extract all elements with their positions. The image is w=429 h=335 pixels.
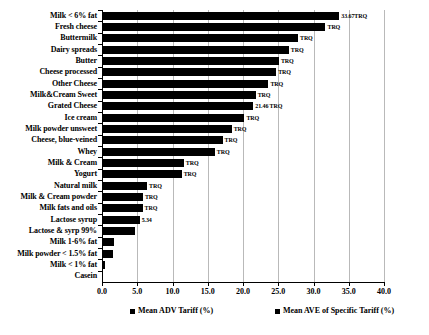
category-label: Buttermilk (60, 34, 97, 42)
chart-row: Milk < 6% fat33.67TRQ (102, 10, 384, 21)
chart-row: ButterTRQ (102, 55, 384, 66)
bar (102, 91, 256, 99)
legend-label: Mean ADV Tariff (%) (138, 307, 213, 315)
chart-legend: Mean ADV Tariff (%) Mean AVE of Specific… (0, 307, 429, 321)
x-axis-tick-label: 25.0 (271, 288, 285, 296)
legend-swatch-icon (275, 309, 280, 314)
bar (102, 238, 114, 246)
x-axis-tick-label: 0.0 (97, 288, 107, 296)
y-axis-tick (98, 33, 102, 34)
y-axis-tick (98, 214, 102, 215)
bar-annotation: TRQ (270, 81, 283, 87)
chart-row: Milk & CreamTRQ (102, 157, 384, 168)
chart-row: Casein (102, 271, 384, 282)
category-label: Milk fats and oils (39, 204, 97, 212)
bar-chart: Milk < 6% fat33.67TRQFresh cheeseTRQButt… (0, 0, 429, 335)
bar-annotation: TRQ (278, 69, 291, 75)
y-axis-tick (98, 225, 102, 226)
bar-annotation: TRQ (281, 58, 294, 64)
category-label: Cheese processed (39, 68, 97, 76)
bar-annotation: 5.34 (142, 217, 152, 223)
category-label: Lactose & syrp 99% (29, 227, 97, 235)
bar-annotation: TRQ (217, 149, 230, 155)
bar (102, 261, 105, 269)
y-axis-tick (98, 10, 102, 11)
chart-row: Cheese, blue-veinedTRQ (102, 135, 384, 146)
x-axis-tick (173, 282, 174, 286)
bar (102, 170, 182, 178)
y-axis-tick (98, 21, 102, 22)
y-axis-tick (98, 112, 102, 113)
bar-annotation: TRQ (225, 137, 238, 143)
bar (102, 193, 143, 201)
bar-annotation: TRQ (186, 160, 199, 166)
chart-row: Ice creamTRQ (102, 112, 384, 123)
y-axis-tick (98, 135, 102, 136)
y-axis-tick (98, 146, 102, 147)
x-axis-tick (102, 282, 103, 286)
y-axis-tick (98, 203, 102, 204)
y-axis-tick (98, 123, 102, 124)
bar-annotation: TRQ (291, 47, 304, 53)
chart-row: Lactose syrup5.34 (102, 214, 384, 225)
bar (102, 159, 184, 167)
bar (102, 250, 113, 258)
category-label: Butter (75, 57, 97, 65)
chart-row: Grated Cheese21.46 TRQ (102, 101, 384, 112)
chart-row: Dairy spreadsTRQ (102, 44, 384, 55)
bar-annotation: 21.46 TRQ (255, 103, 282, 109)
bar (102, 114, 244, 122)
category-label: Milk powder unsweet (25, 125, 97, 133)
chart-row: Lactose & syrp 99% (102, 225, 384, 236)
y-axis-tick (98, 169, 102, 170)
bar-annotation: TRQ (184, 171, 197, 177)
category-label: Milk & Cream powder (21, 193, 97, 201)
plot-area: Milk < 6% fat33.67TRQFresh cheeseTRQButt… (102, 10, 384, 282)
chart-row: WheyTRQ (102, 146, 384, 157)
chart-row: Fresh cheeseTRQ (102, 21, 384, 32)
x-axis-tick (208, 282, 209, 286)
y-axis-tick (98, 259, 102, 260)
y-axis-tick (98, 180, 102, 181)
legend-label: Mean AVE of Specific Tariff (%) (283, 307, 394, 315)
chart-row: Milk < 1% fat (102, 259, 384, 270)
x-axis-tick-label: 35.0 (342, 288, 356, 296)
bar (102, 57, 279, 65)
bar (102, 46, 289, 54)
bar-annotation: TRQ (234, 126, 247, 132)
bar (102, 102, 253, 110)
bar (102, 148, 215, 156)
x-axis-tick (278, 282, 279, 286)
x-axis-tick (349, 282, 350, 286)
y-axis-tick (98, 89, 102, 90)
legend-item-ave-specific-tariff: Mean AVE of Specific Tariff (%) (275, 307, 394, 315)
y-axis-tick (98, 237, 102, 238)
bar (102, 68, 276, 76)
category-label: Other Cheese (52, 80, 97, 88)
category-label: Milk 1-6% fat (50, 238, 97, 246)
bar (102, 12, 339, 20)
y-axis-tick (98, 248, 102, 249)
category-label: Cheese, blue-veined (31, 136, 97, 144)
bar-annotation: TRQ (149, 183, 162, 189)
gridline (384, 10, 385, 282)
category-label: Ice cream (65, 114, 98, 122)
x-axis-tick (314, 282, 315, 286)
chart-row: Milk&Cream SweetTRQ (102, 89, 384, 100)
bar-annotation: TRQ (145, 194, 158, 200)
legend-swatch-icon (130, 309, 135, 314)
category-label: Milk < 1% fat (50, 261, 97, 269)
chart-row: YogurtTRQ (102, 169, 384, 180)
x-axis-tick-label: 20.0 (236, 288, 250, 296)
x-axis-tick (137, 282, 138, 286)
bar (102, 227, 135, 235)
bar (102, 182, 147, 190)
bar-annotation: 33.67TRQ (341, 13, 367, 19)
category-label: Grated Cheese (48, 102, 97, 110)
chart-row: Milk fats and oilsTRQ (102, 203, 384, 214)
legend-item-adv-tariff: Mean ADV Tariff (%) (130, 307, 213, 315)
bar-annotation: TRQ (258, 92, 271, 98)
x-axis-tick (384, 282, 385, 286)
category-label: Yogurt (74, 170, 97, 178)
bar (102, 125, 232, 133)
